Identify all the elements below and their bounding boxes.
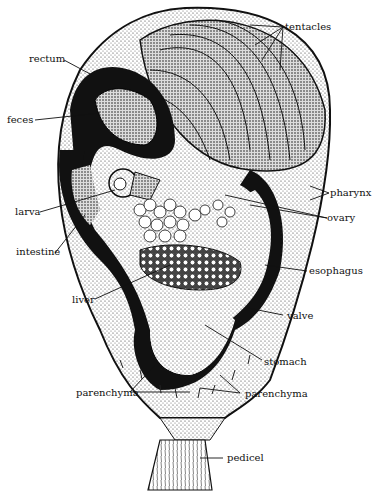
label-parenchyma-left: parenchyma <box>76 387 139 399</box>
label-esophagus: esophagus <box>309 265 363 277</box>
pedicel <box>148 440 212 490</box>
label-parenchyma-right: parenchyma <box>245 388 308 400</box>
label-pedicel: pedicel <box>227 452 264 464</box>
label-larva: larva <box>15 206 41 218</box>
label-liver: liver <box>72 294 95 306</box>
label-intestine: intestine <box>16 246 60 258</box>
label-tentacles: tentacles <box>285 21 331 33</box>
label-rectum: rectum <box>29 53 65 65</box>
label-valve: valve <box>287 310 313 322</box>
label-ovary: ovary <box>327 212 355 224</box>
collar <box>160 418 225 440</box>
label-stomach: stomach <box>264 356 307 368</box>
label-feces: feces <box>7 114 33 126</box>
label-pharynx: pharynx <box>330 187 371 199</box>
